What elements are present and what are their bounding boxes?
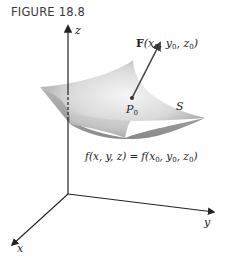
surface-label: S [176, 100, 184, 113]
x-axis [12, 194, 68, 245]
y-axis-label: y [203, 216, 211, 229]
vector-label: F(x0, y0, z0) [136, 37, 198, 51]
x-axis-label: x [17, 242, 24, 255]
point-p0 [130, 96, 134, 100]
level-surface-equation: f(x, y, z)=f(x0, y0, z0) [84, 150, 197, 164]
z-axis-label: z [74, 24, 81, 37]
y-axis [68, 194, 214, 212]
figure-canvas: z y x F(x0, y0, z0) P0 S f(x, y, z)=f(x0… [0, 0, 230, 267]
